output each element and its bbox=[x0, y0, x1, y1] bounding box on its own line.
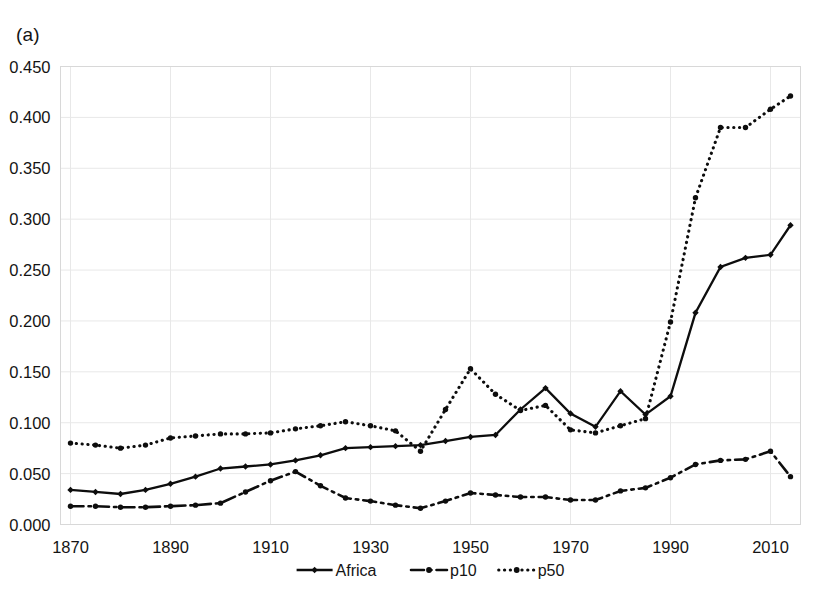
data-point-marker bbox=[493, 492, 498, 497]
data-point-marker bbox=[593, 430, 598, 435]
data-point-marker bbox=[143, 442, 148, 447]
data-point-marker bbox=[343, 419, 348, 424]
y-axis-tick-label: 0.000 bbox=[9, 516, 50, 534]
data-point-marker bbox=[217, 465, 223, 471]
data-series-layer bbox=[67, 93, 793, 511]
data-point-marker bbox=[393, 428, 398, 433]
chart-legend: Africap10p50 bbox=[297, 562, 565, 579]
chart-canvas: 0.0000.0500.1000.1500.2000.2500.3000.350… bbox=[0, 0, 817, 608]
data-point-marker bbox=[518, 494, 523, 499]
data-point-marker bbox=[143, 505, 148, 510]
data-point-marker bbox=[318, 423, 323, 428]
x-axis-tick-label: 1930 bbox=[352, 538, 389, 556]
legend-label-p10: p10 bbox=[450, 562, 477, 579]
data-point-marker bbox=[788, 93, 793, 98]
data-point-marker bbox=[468, 366, 473, 371]
data-point-marker bbox=[267, 461, 273, 467]
data-point-marker bbox=[93, 442, 98, 447]
data-point-marker bbox=[518, 408, 523, 413]
data-point-marker bbox=[568, 427, 573, 432]
data-point-marker bbox=[743, 125, 748, 130]
data-point-marker bbox=[168, 435, 173, 440]
data-point-marker bbox=[142, 487, 148, 493]
figure-caption-partial bbox=[0, 586, 817, 608]
y-axis-tick-label: 0.350 bbox=[9, 159, 50, 177]
y-axis-tick-label: 0.150 bbox=[9, 363, 50, 381]
y-axis-tick-label: 0.050 bbox=[9, 465, 50, 483]
data-point-marker bbox=[193, 433, 198, 438]
data-point-marker bbox=[293, 469, 298, 474]
y-axis-tick-labels: 0.0000.0500.1000.1500.2000.2500.3000.350… bbox=[9, 58, 50, 534]
data-point-marker bbox=[468, 490, 473, 495]
data-point-marker bbox=[292, 457, 298, 463]
data-point-marker bbox=[368, 423, 373, 428]
data-point-marker bbox=[643, 416, 648, 421]
data-point-marker bbox=[768, 449, 773, 454]
line-chart: 0.0000.0500.1000.1500.2000.2500.3000.350… bbox=[0, 0, 817, 608]
x-axis-tick-labels: 18701890191019301950197019902010 bbox=[52, 538, 789, 556]
data-point-marker bbox=[543, 403, 548, 408]
data-point-marker bbox=[493, 392, 498, 397]
legend-label-africa: Africa bbox=[336, 562, 377, 579]
data-point-marker bbox=[367, 444, 373, 450]
data-point-marker bbox=[67, 487, 73, 493]
y-axis-tick-label: 0.300 bbox=[9, 210, 50, 228]
series-line-p10 bbox=[71, 451, 791, 508]
data-point-marker bbox=[268, 430, 273, 435]
data-point-marker bbox=[443, 498, 448, 503]
data-point-marker bbox=[788, 474, 793, 479]
data-point-marker bbox=[718, 125, 723, 130]
data-point-marker bbox=[543, 494, 548, 499]
y-axis-tick-label: 0.450 bbox=[9, 58, 50, 76]
y-axis-tick-label: 0.200 bbox=[9, 312, 50, 330]
series-line-p50 bbox=[71, 96, 791, 451]
y-axis-tick-label: 0.100 bbox=[9, 414, 50, 432]
data-point-marker bbox=[442, 438, 448, 444]
data-point-marker bbox=[192, 473, 198, 479]
data-point-marker bbox=[693, 462, 698, 467]
x-axis-tick-label: 1970 bbox=[552, 538, 589, 556]
data-point-marker bbox=[393, 502, 398, 507]
x-axis-tick-label: 2010 bbox=[752, 538, 789, 556]
gridlines-group bbox=[61, 67, 801, 525]
data-point-marker bbox=[693, 195, 698, 200]
x-axis-tick-label: 1950 bbox=[452, 538, 489, 556]
data-point-marker bbox=[668, 319, 673, 324]
y-axis-tick-label: 0.250 bbox=[9, 261, 50, 279]
data-point-marker bbox=[343, 495, 348, 500]
data-point-marker bbox=[593, 497, 598, 502]
data-point-marker bbox=[467, 434, 473, 440]
x-axis-tick-label: 1890 bbox=[152, 538, 189, 556]
data-point-marker bbox=[668, 475, 673, 480]
data-point-marker bbox=[768, 107, 773, 112]
data-point-marker bbox=[193, 502, 198, 507]
data-point-marker bbox=[68, 503, 73, 508]
legend-marker-p50 bbox=[514, 567, 520, 573]
x-axis-tick-label: 1870 bbox=[52, 538, 89, 556]
data-point-marker bbox=[293, 426, 298, 431]
data-point-marker bbox=[443, 407, 448, 412]
y-axis-tick-label: 0.400 bbox=[9, 108, 50, 126]
data-point-marker bbox=[118, 445, 123, 450]
data-point-marker bbox=[718, 458, 723, 463]
data-point-marker bbox=[317, 452, 323, 458]
data-point-marker bbox=[318, 483, 323, 488]
data-point-marker bbox=[342, 445, 348, 451]
data-point-marker bbox=[168, 503, 173, 508]
data-point-marker bbox=[68, 440, 73, 445]
data-point-marker bbox=[618, 488, 623, 493]
data-point-marker bbox=[117, 491, 123, 497]
data-point-marker bbox=[118, 505, 123, 510]
data-point-marker bbox=[742, 255, 748, 261]
data-point-marker bbox=[218, 431, 223, 436]
data-point-marker bbox=[418, 506, 423, 511]
data-point-marker bbox=[93, 503, 98, 508]
legend-marker-africa bbox=[311, 567, 317, 573]
data-point-marker bbox=[92, 489, 98, 495]
data-point-marker bbox=[568, 497, 573, 502]
data-point-marker bbox=[418, 449, 423, 454]
data-point-marker bbox=[218, 500, 223, 505]
data-point-marker bbox=[618, 423, 623, 428]
data-point-marker bbox=[243, 489, 248, 494]
data-point-marker bbox=[392, 443, 398, 449]
